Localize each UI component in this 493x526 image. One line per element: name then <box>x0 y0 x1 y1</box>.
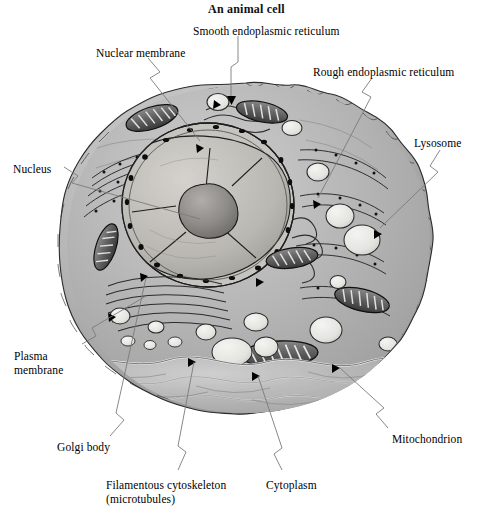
nucleolus <box>179 184 238 238</box>
cell-body <box>58 82 436 420</box>
label-lysosome: Lysosome <box>414 137 461 151</box>
animal-cell-figure: An animal cell <box>0 0 493 526</box>
label-filamentous-cytoskeleton-line2: (microtubules) <box>106 493 175 505</box>
label-filamentous-cytoskeleton-line1: Filamentous cytoskeleton <box>106 479 226 491</box>
label-nuclear-membrane: Nuclear membrane <box>96 47 185 61</box>
label-plasma-membrane-line1: Plasma <box>14 350 48 362</box>
label-plasma-membrane: Plasmamembrane <box>14 350 63 377</box>
label-rough-er: Rough endoplasmic reticulum <box>313 66 454 80</box>
label-cytoplasm: Cytoplasm <box>266 479 317 493</box>
label-golgi-body: Golgi body <box>57 441 110 455</box>
label-nucleus: Nucleus <box>13 163 51 177</box>
label-filamentous-cytoskeleton: Filamentous cytoskeleton(microtubules) <box>106 479 226 506</box>
label-smooth-er: Smooth endoplasmic reticulum <box>193 25 340 39</box>
label-plasma-membrane-line2: membrane <box>14 364 63 376</box>
label-mitochondrion: Mitochondrion <box>392 433 462 447</box>
